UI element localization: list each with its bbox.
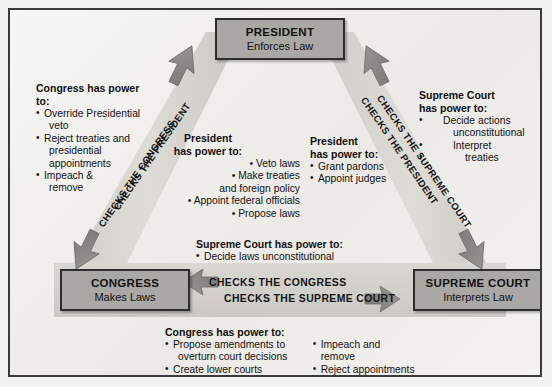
list-item: appointments bbox=[36, 158, 146, 170]
label-bottom-checks-the-congress: CHECKS THE CONGRESS bbox=[209, 277, 347, 288]
list-item: Create lower courts bbox=[165, 364, 303, 376]
powers-president-over-congress: President has power to: • Veto laws • Ma… bbox=[150, 132, 300, 220]
node-president-title: PRESIDENT bbox=[246, 25, 315, 39]
node-president-role: Enforces Law bbox=[247, 39, 314, 53]
list-item: Decide laws unconstitutional bbox=[196, 251, 426, 263]
powers-list: • Veto laws • Make treaties and foreign … bbox=[150, 158, 300, 220]
list-item: • Appoint federal officials bbox=[150, 195, 300, 207]
diagram-frame: PRESIDENT Enforces Law CONGRESS Makes La… bbox=[8, 8, 542, 377]
powers-heading-line2: has power to: bbox=[150, 145, 300, 158]
powers-columns: Propose amendments to overturn court dec… bbox=[165, 339, 415, 376]
list-item: Appoint judges bbox=[310, 173, 420, 185]
list-item: remove bbox=[36, 182, 146, 194]
powers-congress-over-president: Congress has power to: Override Presiden… bbox=[36, 82, 146, 195]
list-item: Propose amendments to bbox=[165, 339, 303, 351]
node-president: PRESIDENT Enforces Law bbox=[215, 18, 345, 60]
powers-heading: Supreme Court has power to: bbox=[196, 238, 426, 251]
powers-heading-line1: Supreme Court bbox=[419, 89, 539, 102]
list-item: Interpret bbox=[419, 140, 539, 152]
powers-list: Grant pardons Appoint judges bbox=[310, 161, 420, 186]
node-congress: CONGRESS Makes Laws bbox=[60, 269, 190, 311]
list-item: veto bbox=[36, 120, 146, 132]
powers-heading-line2: has power to: bbox=[419, 102, 539, 115]
powers-list-column-2: Impeach and remove Reject appointments bbox=[313, 339, 415, 376]
list-item: presidential bbox=[36, 145, 146, 157]
powers-supreme-court-over-congress: Supreme Court has power to: Decide laws … bbox=[196, 238, 426, 263]
list-item: Override Presidential bbox=[36, 108, 146, 120]
node-supreme-court-role: Interprets Law bbox=[443, 290, 513, 304]
label-bottom-checks-the-supreme-court: CHECKS THE SUPREME COURT bbox=[224, 293, 395, 304]
list-item: Decide actions bbox=[419, 115, 539, 127]
list-item: • Veto laws bbox=[150, 158, 300, 170]
powers-heading-line2: has power to: bbox=[310, 148, 420, 161]
node-congress-role: Makes Laws bbox=[94, 290, 155, 304]
powers-president-over-supreme-court: President has power to: Grant pardons Ap… bbox=[310, 135, 420, 186]
list-item: unconstitutional bbox=[419, 127, 539, 139]
list-item: overturn court decisions bbox=[165, 351, 303, 363]
node-supreme-court-title: SUPREME COURT bbox=[426, 276, 531, 290]
list-item: Grant pardons bbox=[310, 161, 420, 173]
list-item: Impeach and remove bbox=[313, 339, 415, 364]
list-item: • Make treaties bbox=[150, 170, 300, 182]
list-item: Reject appointments bbox=[313, 364, 415, 376]
list-item: Reject treaties and bbox=[36, 133, 146, 145]
powers-heading: Congress has power to: bbox=[165, 326, 415, 339]
powers-heading-line1: President bbox=[310, 135, 420, 148]
list-item: and foreign policy bbox=[150, 183, 300, 195]
powers-list: Override Presidential veto Reject treati… bbox=[36, 108, 146, 195]
list-item: • Propose laws bbox=[150, 208, 300, 220]
node-supreme-court: SUPREME COURT Interprets Law bbox=[413, 269, 542, 311]
powers-heading-line1: President bbox=[150, 132, 300, 145]
powers-supreme-court-over-president: Supreme Court has power to: Decide actio… bbox=[419, 89, 539, 165]
node-congress-title: CONGRESS bbox=[91, 276, 159, 290]
powers-list: Decide laws unconstitutional bbox=[196, 251, 426, 263]
powers-congress-over-supreme-court: Congress has power to: Propose amendment… bbox=[165, 326, 415, 376]
powers-list: Decide actions unconstitutional Interpre… bbox=[419, 115, 539, 165]
list-item: treaties bbox=[419, 152, 539, 164]
powers-heading: Congress has power to: bbox=[36, 82, 146, 108]
powers-list-column-1: Propose amendments to overturn court dec… bbox=[165, 339, 303, 376]
list-item: Impeach & bbox=[36, 170, 146, 182]
